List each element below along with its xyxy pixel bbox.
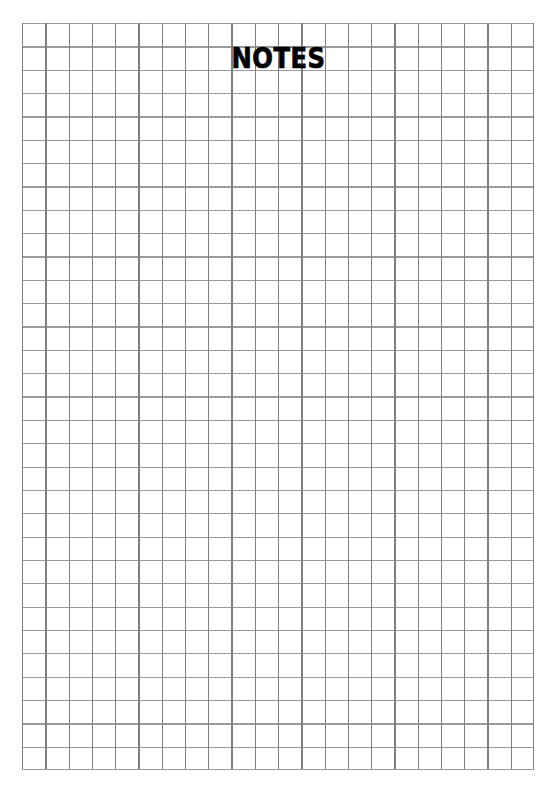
notes-page: NOTES: [0, 0, 557, 794]
grid-sheet: [22, 23, 534, 770]
page-title: NOTES: [19, 44, 537, 72]
grid-bottom-edge-rule: [22, 769, 534, 770]
grid-right-edge-rule: [533, 23, 534, 770]
